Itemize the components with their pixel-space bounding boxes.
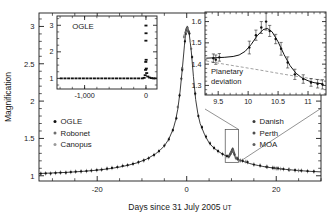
inset-data-point xyxy=(274,38,276,40)
legend-label-perth: Perth xyxy=(260,129,279,138)
data-point xyxy=(201,126,203,128)
data-point xyxy=(101,169,103,171)
data-point xyxy=(80,170,82,172)
data-point xyxy=(185,33,187,35)
data-point xyxy=(40,173,42,175)
inset-left-data-point xyxy=(93,77,96,79)
data-point xyxy=(163,144,165,146)
data-point xyxy=(230,151,232,153)
data-point xyxy=(184,40,186,42)
data-point xyxy=(191,56,193,58)
inset-right-planetary-deviation: 1.31.41.51.69.51010.511Planetarydeviatio… xyxy=(192,12,327,106)
inset-data-point xyxy=(218,56,220,58)
data-point xyxy=(122,165,124,167)
data-point xyxy=(178,94,180,96)
data-point xyxy=(90,169,92,171)
inset-left-data-point xyxy=(60,77,63,79)
inset-left-y-tick-label: 2 xyxy=(50,47,54,56)
data-point xyxy=(54,172,56,174)
data-point xyxy=(186,28,188,30)
data-point xyxy=(148,157,150,159)
inset-left-data-point xyxy=(144,74,147,76)
inset-right-y-tick-label: 1.6 xyxy=(192,17,202,26)
inset-left-data-point xyxy=(111,77,114,79)
inset-left-data-point xyxy=(143,77,146,79)
inset-left-data-point xyxy=(71,77,74,79)
inset-left-data-point xyxy=(86,77,89,79)
data-point xyxy=(49,172,51,174)
inset-data-point xyxy=(321,83,323,85)
data-point xyxy=(65,172,67,174)
inset-data-point xyxy=(248,46,250,48)
data-point xyxy=(294,169,296,171)
inset-data-point xyxy=(260,26,262,28)
data-point xyxy=(143,159,145,161)
inset-left-data-point xyxy=(104,77,107,79)
inset-left-x-tick-label: -1,000 xyxy=(74,91,94,100)
inset-left-data-point xyxy=(145,59,148,61)
inset-left-data-point xyxy=(63,77,66,79)
inset-left-data-point xyxy=(133,77,136,79)
x-axis-label-unit: UT xyxy=(223,204,232,211)
inset-left-data-point xyxy=(144,40,147,42)
data-point xyxy=(313,170,315,172)
inset-left-data-point xyxy=(144,61,147,63)
data-point xyxy=(153,154,155,156)
data-point xyxy=(280,168,282,170)
inset-left-data-point xyxy=(145,32,148,34)
inset-left-data-point xyxy=(145,72,148,74)
planetary-deviation-label-line2: deviation xyxy=(211,77,241,86)
x-axis-label: Days since 31 July 2005 UT xyxy=(128,202,231,212)
data-point xyxy=(180,78,182,80)
data-point xyxy=(59,171,61,173)
inset-left-data-point xyxy=(89,77,92,79)
data-point xyxy=(253,163,255,165)
data-point xyxy=(259,164,261,166)
legend-marker-canopus xyxy=(54,143,57,146)
data-point xyxy=(306,170,308,172)
data-point xyxy=(209,142,211,144)
data-point xyxy=(175,117,177,119)
data-point xyxy=(177,106,179,108)
inset-left-data-point xyxy=(126,77,129,79)
data-point xyxy=(228,155,230,157)
data-point xyxy=(213,147,215,149)
data-point xyxy=(70,171,72,173)
x-tick-label: 20 xyxy=(272,185,280,194)
inset-right-x-tick-label: 10.5 xyxy=(271,97,285,106)
y-tick-label: 3 xyxy=(30,22,34,31)
inset-right-y-tick-label: 1.4 xyxy=(192,60,202,69)
inset-data-point xyxy=(265,20,267,22)
inset-data-point xyxy=(286,61,288,63)
inset-left-data-point xyxy=(145,68,148,70)
data-point xyxy=(137,161,139,163)
data-point xyxy=(197,115,199,117)
inset-right-x-tick-label: 9.5 xyxy=(213,97,223,106)
data-point xyxy=(96,169,98,171)
data-point xyxy=(172,129,174,131)
inset-left-data-point xyxy=(154,77,157,79)
data-point xyxy=(190,48,192,50)
inset-data-point xyxy=(310,81,312,83)
inset-data-point xyxy=(212,57,214,59)
y-tick-label: 2.5 xyxy=(24,60,35,69)
data-point xyxy=(45,172,47,174)
data-point xyxy=(126,164,128,166)
inset-left-ogle-baseline: 123-1,0000OGLE xyxy=(50,16,158,100)
inset-left-data-point xyxy=(130,77,133,79)
inset-left-data-point xyxy=(115,77,118,79)
inset-left-data-point xyxy=(100,77,103,79)
inset-data-point xyxy=(215,58,217,60)
inset-data-point xyxy=(255,34,257,36)
inset-left-data-point xyxy=(78,77,81,79)
inset-data-point xyxy=(302,78,304,80)
y-tick-label: 2 xyxy=(30,97,34,106)
data-point xyxy=(75,171,77,173)
inset-right-y-tick-label: 1.3 xyxy=(192,81,202,90)
inset-data-point xyxy=(268,30,270,32)
legend-marker-moa xyxy=(253,143,256,146)
data-point xyxy=(266,166,268,168)
inset-left-data-point xyxy=(97,77,100,79)
data-point xyxy=(205,135,207,137)
legend-marker-perth xyxy=(253,132,256,135)
